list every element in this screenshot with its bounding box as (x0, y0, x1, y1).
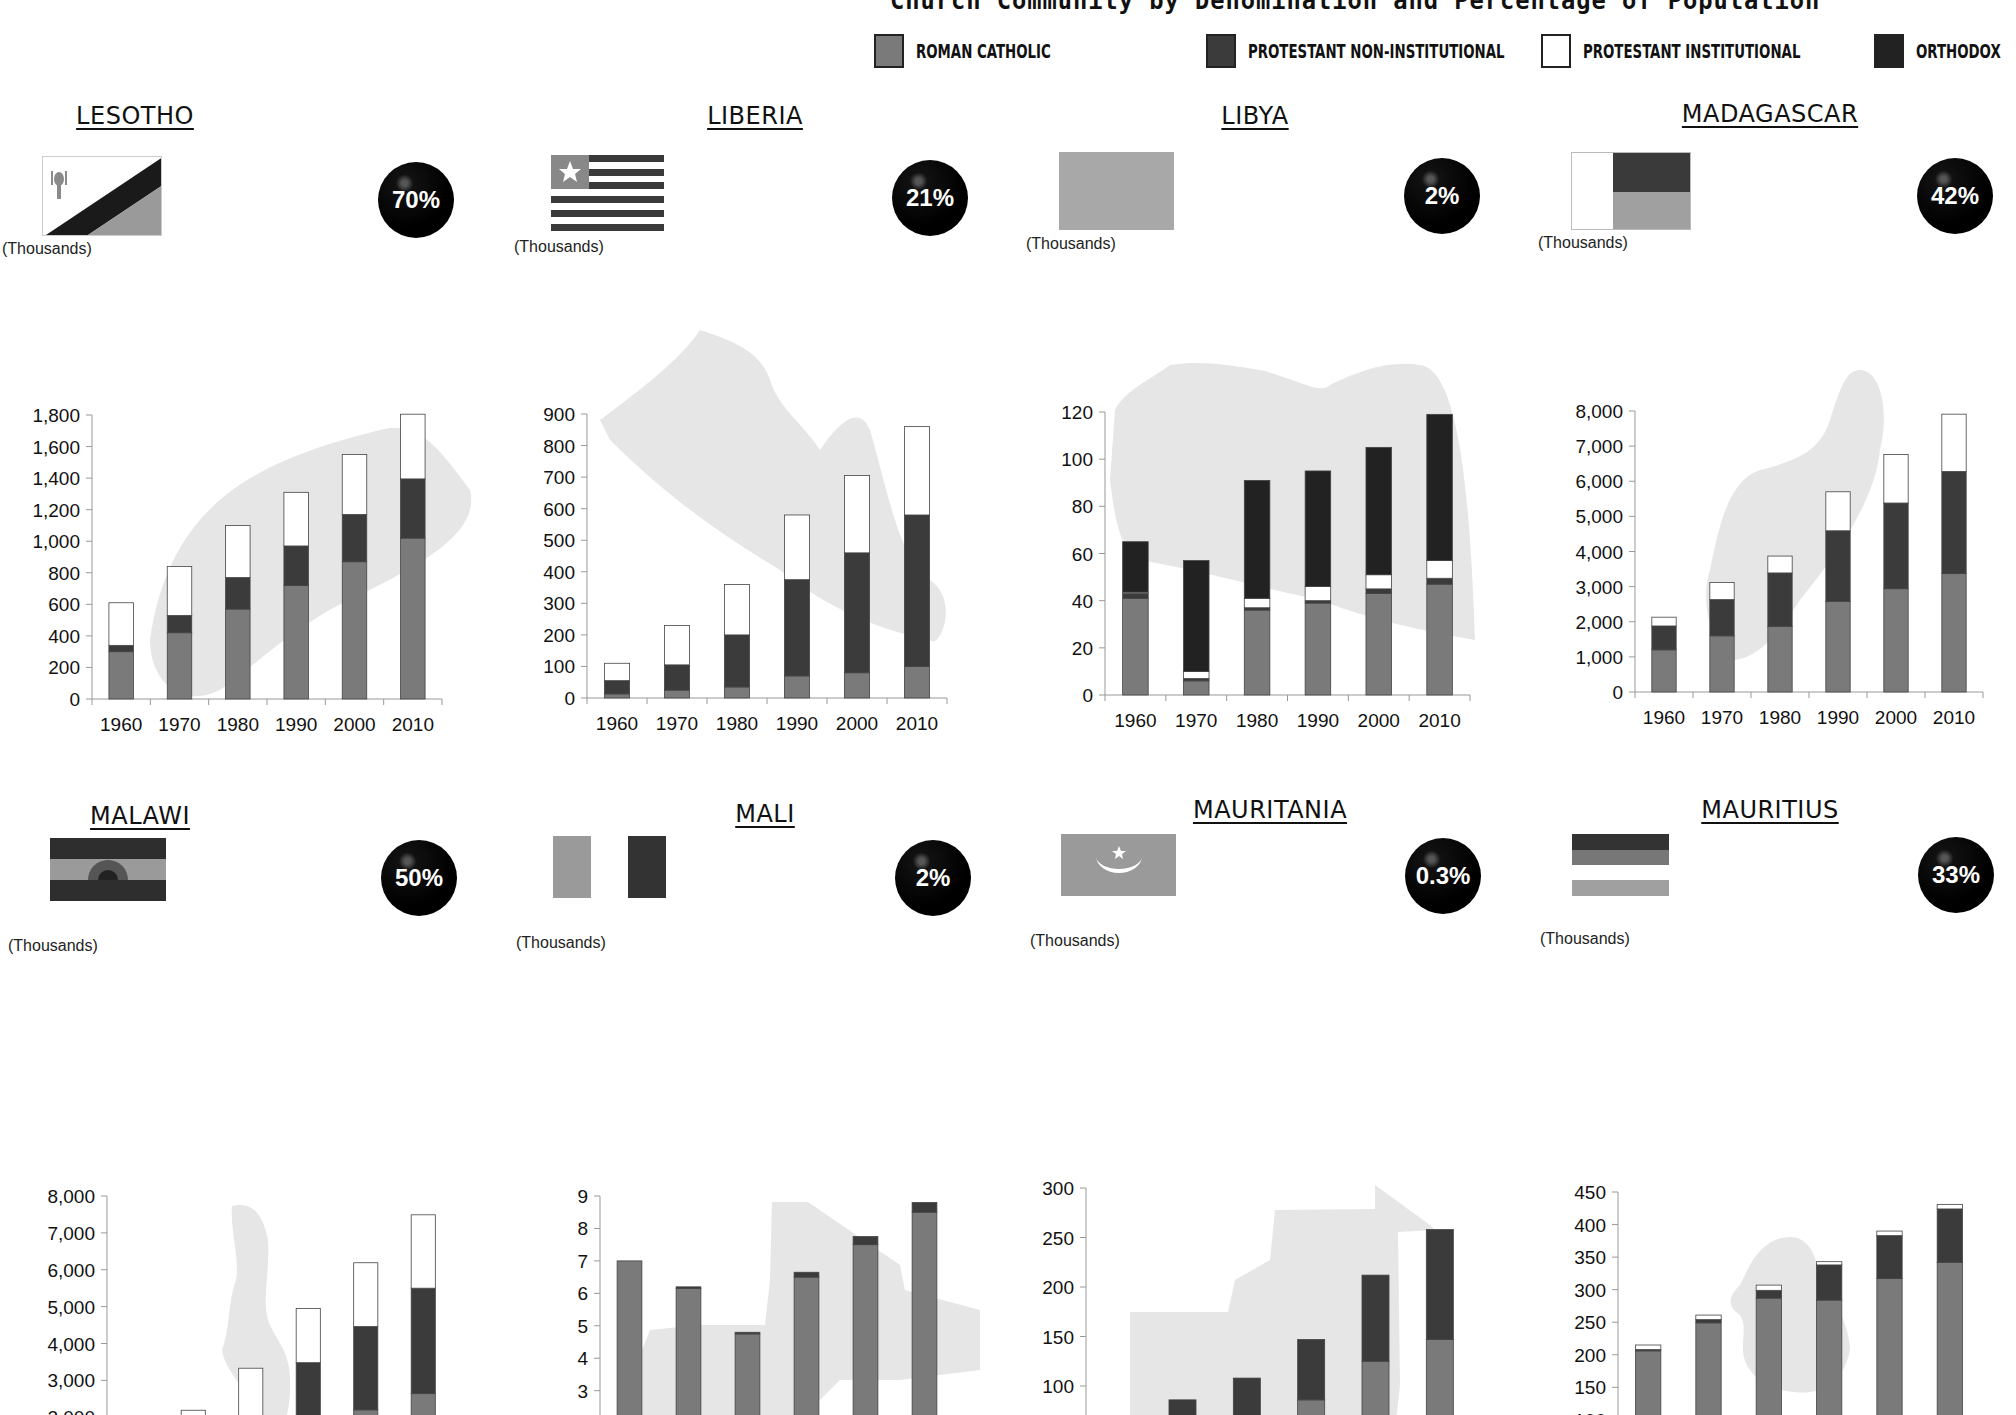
bar-segment-pni (411, 1288, 435, 1393)
x-tick-label: 1970 (656, 713, 698, 734)
bar-segment-pni (1937, 1209, 1962, 1262)
bar-chart: 01,0002,0003,0004,0005,0006,0007,0008,00… (0, 980, 500, 1415)
stacked-bar-1960 (1635, 1345, 1660, 1415)
legend-label: ROMAN CATHOLIC (916, 40, 1051, 62)
stacked-bar-2010 (912, 1202, 937, 1415)
bar-segment-pi (724, 584, 749, 634)
x-tick-label: 1970 (1701, 707, 1743, 728)
legend-label: ORTHODOX (1916, 40, 2001, 62)
stacked-bar-1960 (617, 1261, 642, 1415)
bar-segment-pni (226, 578, 251, 610)
bar-segment-orth (1427, 414, 1453, 560)
x-tick-label: 1960 (100, 714, 142, 735)
bar-segment-pni (904, 515, 929, 666)
percentage-badge: 50% (381, 840, 457, 916)
bar-segment-pi (604, 663, 629, 680)
bar-segment-pi (239, 1368, 263, 1415)
stacked-bar-2010 (401, 414, 426, 699)
x-tick-label: 1990 (275, 714, 317, 735)
malawi-flag-icon (50, 838, 166, 901)
stacked-bar-2010 (411, 1215, 435, 1415)
legend-item-roman-catholic: ROMAN CATHOLIC (874, 34, 1089, 68)
bar-segment-pni (1233, 1378, 1260, 1415)
stacked-bar-2000 (1362, 1275, 1389, 1415)
bar-segment-pni (844, 553, 869, 673)
stacked-bar-1990 (784, 515, 809, 698)
stacked-bar-1960 (109, 603, 133, 699)
x-tick-label: 2010 (1933, 707, 1975, 728)
bar-segment-pni (794, 1272, 819, 1277)
units-label: (Thousands) (1030, 932, 1120, 950)
mauritania-flag-icon (1061, 834, 1176, 896)
percentage-badge: 42% (1917, 158, 1993, 234)
y-tick-label: 5,000 (1575, 506, 1623, 527)
y-tick-label: 1,600 (32, 437, 80, 458)
bar-segment-pi (1937, 1204, 1962, 1209)
y-tick-label: 8,000 (47, 1186, 95, 1207)
bar-segment-pi (1768, 556, 1792, 573)
units-label: (Thousands) (516, 934, 606, 952)
x-tick-label: 1980 (1236, 710, 1278, 731)
y-tick-label: 5 (577, 1316, 588, 1337)
legend-item-orthodox: ORTHODOX (1874, 34, 2016, 68)
y-tick-label: 6,000 (1575, 471, 1623, 492)
stacked-bar-2000 (342, 454, 367, 699)
stacked-bar-1980 (1756, 1285, 1781, 1415)
x-tick-label: 1980 (1759, 707, 1801, 728)
bar-segment-rc (784, 676, 809, 698)
bar-segment-pi (284, 492, 309, 546)
y-tick-label: 3,000 (47, 1370, 95, 1391)
legend-label: PROTESTANT INSTITUTIONAL (1583, 40, 1800, 62)
y-tick-label: 800 (543, 436, 575, 457)
units-label: (Thousands) (1026, 235, 1116, 253)
stacked-bar-1990 (1816, 1262, 1841, 1415)
bar-segment-rc (1123, 598, 1149, 695)
panel-lesotho: LESOTHO 70% (Thousands) 02004006008001,0… (0, 100, 500, 800)
stacked-bar-1960 (1652, 617, 1676, 692)
y-tick-label: 0 (69, 689, 80, 710)
bar-segment-pni (354, 1327, 378, 1410)
bar-segment-pni (735, 1332, 760, 1334)
x-tick-label: 1960 (1643, 707, 1685, 728)
stacked-bar-1960 (604, 663, 629, 698)
x-tick-label: 1970 (1175, 710, 1217, 731)
y-tick-label: 100 (1042, 1376, 1074, 1397)
x-tick-label: 1960 (596, 713, 638, 734)
y-tick-label: 300 (1574, 1280, 1606, 1301)
bar-segment-pni (1366, 589, 1392, 594)
bar-segment-rc (853, 1245, 878, 1415)
y-tick-label: 100 (543, 656, 575, 677)
y-tick-label: 7 (577, 1251, 588, 1272)
legend-item-protestant-institutional: PROTESTANT INSTITUTIONAL (1541, 34, 1862, 68)
bar-segment-pni (1652, 626, 1676, 650)
legend-swatch-roman-catholic (874, 34, 904, 68)
stacked-bar-1980 (724, 584, 749, 698)
y-tick-label: 300 (1042, 1178, 1074, 1199)
bar-segment-rc (735, 1334, 760, 1415)
legend-swatch-protestant-institutional (1541, 34, 1571, 68)
bar-segment-pni (664, 665, 689, 690)
country-map-silhouette (600, 330, 946, 641)
liberia-flag-icon (551, 155, 671, 235)
lesotho-flag-icon (42, 156, 162, 236)
bar-segment-pni (167, 615, 192, 632)
bar-segment-rc (1768, 626, 1792, 692)
stacked-bar-1980 (1244, 480, 1270, 695)
units-label: (Thousands) (8, 937, 98, 955)
y-tick-label: 200 (48, 657, 80, 678)
bar-segment-rc (1877, 1279, 1902, 1415)
bar-segment-pni (1362, 1275, 1389, 1361)
bar-segment-pi (1884, 455, 1908, 503)
y-tick-label: 250 (1042, 1228, 1074, 1249)
mali-flag-icon (553, 836, 666, 898)
stacked-bar-2010 (1942, 414, 1966, 692)
bar-segment-rc (794, 1277, 819, 1415)
panel-mauritania: MAURITANIA 0.3% (Thousands) 050100150200… (1000, 780, 1500, 1415)
bar-segment-pi (1877, 1231, 1902, 1236)
legend-swatch-orthodox (1874, 34, 1904, 68)
x-tick-label: 1990 (1297, 710, 1339, 731)
bar-segment-pi (904, 427, 929, 515)
bar-segment-rc (904, 666, 929, 698)
bar-segment-rc (1305, 603, 1331, 695)
bar-segment-rc (1937, 1262, 1962, 1415)
